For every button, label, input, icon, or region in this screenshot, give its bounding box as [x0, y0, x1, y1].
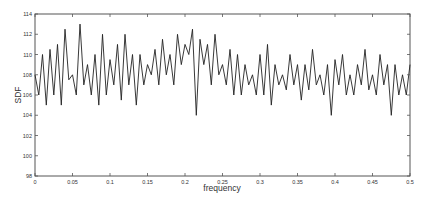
x-axis-label: frequency [203, 183, 241, 193]
x-tick-label: 0.5 [406, 179, 414, 185]
x-tick-label: 0.15 [142, 179, 153, 185]
y-tick-label: 108 [23, 72, 32, 78]
y-tick-label: 110 [23, 52, 32, 58]
x-tick-label: 0.35 [292, 179, 303, 185]
y-tick-label: 114 [23, 11, 32, 17]
y-tick-label: 102 [23, 133, 32, 139]
plot-area [35, 14, 410, 176]
y-axis-label: SDF [13, 87, 23, 104]
y-tick-label: 104 [23, 112, 32, 118]
x-tick-label: 0.45 [367, 179, 378, 185]
y-tick-label: 100 [23, 153, 32, 159]
x-tick-label: 0.2 [181, 179, 189, 185]
sdf-line-chart: 00.050.10.150.20.250.30.350.40.450.5 981… [0, 0, 428, 201]
x-tick-label: 0.1 [106, 179, 114, 185]
x-tick-label: 0.3 [256, 179, 264, 185]
x-tick-label: 0 [33, 179, 36, 185]
y-tick-label: 106 [23, 92, 32, 98]
y-tick-label: 98 [26, 173, 32, 179]
x-tick-label: 0.05 [67, 179, 78, 185]
y-tick-label: 112 [23, 31, 32, 37]
x-tick-label: 0.4 [331, 179, 339, 185]
